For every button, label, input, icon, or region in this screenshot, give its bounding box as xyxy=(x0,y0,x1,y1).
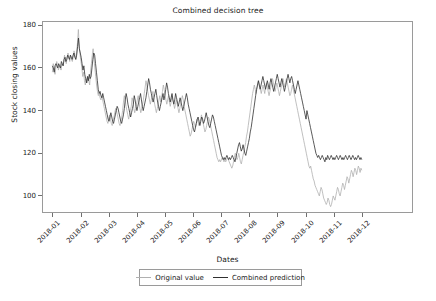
legend-entry[interactable]: Combined prediction xyxy=(213,274,305,282)
x-axis-tick-label: 2018-06 xyxy=(176,219,203,246)
x-axis-tick-mark xyxy=(193,213,194,217)
x-axis-tick-mark xyxy=(221,213,222,217)
x-axis-tick-label: 2018-04 xyxy=(120,219,147,246)
legend-line-swatch xyxy=(213,277,228,278)
y-axis-tick-label: 140 xyxy=(23,106,36,116)
legend-line-swatch xyxy=(136,277,151,278)
y-axis-tick-label: 180 xyxy=(23,20,36,30)
x-axis-tick-label: 2018-11 xyxy=(316,219,343,246)
plot-area xyxy=(42,21,413,213)
x-axis-tick-mark xyxy=(249,213,250,217)
x-axis-tick-label: 2018-05 xyxy=(148,219,175,246)
x-axis-tick-mark xyxy=(81,213,82,217)
y-axis-label: Stock closing values xyxy=(10,15,19,155)
x-axis-label: Dates xyxy=(42,255,413,264)
legend-entry[interactable]: Original value xyxy=(136,274,204,282)
legend-label: Combined prediction xyxy=(232,274,305,282)
chart-legend: Original valueCombined prediction xyxy=(139,269,302,286)
y-axis-tick-label: 120 xyxy=(23,148,36,158)
x-axis-tick-mark xyxy=(306,213,307,217)
x-axis-tick-mark xyxy=(52,213,53,217)
y-axis-ticks: 100120140160180 xyxy=(0,21,42,213)
x-axis-tick-mark xyxy=(137,213,138,217)
x-axis-tick-label: 2018-07 xyxy=(204,219,231,246)
x-axis-tick-mark xyxy=(277,213,278,217)
chart-title: Combined decision tree xyxy=(0,6,436,15)
x-axis-tick-mark xyxy=(109,213,110,217)
legend-label: Original value xyxy=(155,274,204,282)
series-lines xyxy=(42,21,413,213)
x-axis-tick-label: 2018-12 xyxy=(345,219,372,246)
x-axis-tick-label: 2018-01 xyxy=(35,219,62,246)
y-axis-tick-label: 160 xyxy=(23,63,36,73)
x-axis-tick-label: 2018-03 xyxy=(91,219,118,246)
x-axis-tick-mark xyxy=(334,213,335,217)
x-axis-tick-label: 2018-10 xyxy=(288,219,315,246)
x-axis-tick-mark xyxy=(165,213,166,217)
series-line xyxy=(52,38,361,162)
x-axis-tick-label: 2018-08 xyxy=(232,219,259,246)
x-axis-tick-label: 2018-02 xyxy=(63,219,90,246)
chart-figure: Combined decision tree 100120140160180 S… xyxy=(0,0,436,301)
x-axis-tick-label: 2018-09 xyxy=(260,219,287,246)
y-axis-tick-label: 100 xyxy=(23,191,36,201)
x-axis-tick-mark xyxy=(362,213,363,217)
